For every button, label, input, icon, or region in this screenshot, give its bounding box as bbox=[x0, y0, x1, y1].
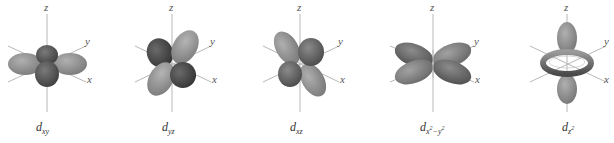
x-axis-label: x bbox=[212, 73, 217, 85]
orbital-label-dxy: dxy bbox=[36, 120, 49, 136]
orbital-dx2-y2: z y x dx2−y2 bbox=[386, 0, 508, 143]
orbital-label-dx2-y2: dx2−y2 bbox=[420, 120, 445, 136]
orbital-label-dyz: dyz bbox=[162, 120, 175, 136]
z-axis-label: z bbox=[297, 1, 301, 13]
z-axis-label: z bbox=[430, 1, 434, 13]
x-axis-label: x bbox=[340, 73, 345, 85]
x-axis-label: x bbox=[87, 73, 92, 85]
orbital-dxy: z y x dxy bbox=[0, 0, 122, 143]
orbital-dyz-drawing bbox=[125, 0, 247, 143]
orbital-dxz: z y x dxz bbox=[253, 0, 375, 143]
orbital-dx2-y2-drawing bbox=[386, 0, 508, 143]
orbital-dz2: z y x dz2 bbox=[520, 0, 614, 143]
x-axis-label: x bbox=[475, 73, 480, 85]
orbital-dxy-drawing bbox=[0, 0, 122, 143]
z-axis-label: z bbox=[169, 1, 173, 13]
y-axis-label: y bbox=[338, 35, 343, 47]
y-axis-label: y bbox=[474, 35, 479, 47]
orbital-dyz: z y x dyz bbox=[125, 0, 247, 143]
z-axis-label: z bbox=[44, 1, 48, 13]
orbital-dxz-drawing bbox=[253, 0, 375, 143]
orbital-label-dxz: dxz bbox=[290, 120, 303, 136]
x-axis-label: x bbox=[604, 73, 609, 85]
y-axis-label: y bbox=[210, 35, 215, 47]
y-axis-label: y bbox=[604, 35, 609, 47]
orbital-label-dz2: dz2 bbox=[562, 120, 574, 136]
y-axis-label: y bbox=[85, 35, 90, 47]
z-axis-label: z bbox=[564, 1, 568, 13]
